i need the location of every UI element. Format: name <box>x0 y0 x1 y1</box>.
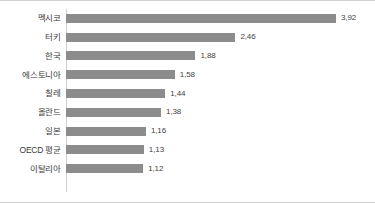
bar-track: 1,13 <box>66 141 375 160</box>
bar-track: 3,92 <box>66 9 375 28</box>
bar-row: 일본1,16 <box>0 122 375 141</box>
bar-row: 이탈리아1,12 <box>0 159 375 178</box>
bar-track: 1,44 <box>66 84 375 103</box>
bar <box>66 164 143 173</box>
bar-category-label: 멕시코 <box>0 14 66 23</box>
bar <box>66 33 235 42</box>
bar-track: 1,88 <box>66 47 375 66</box>
bar-category-label: 이탈리아 <box>0 165 66 174</box>
bar-category-label: 올란드 <box>0 108 66 117</box>
bar-track: 1,38 <box>66 103 375 122</box>
bar-value-label: 1,16 <box>146 127 166 135</box>
bar-row: 칠레1,44 <box>0 84 375 103</box>
bar-value-label: 1,44 <box>165 90 185 98</box>
bar-value-label: 1,88 <box>195 52 215 60</box>
bar-category-label: OECD 평균 <box>0 146 66 155</box>
bar-value-label: 1,38 <box>161 108 181 116</box>
bar-value-label: 1,13 <box>144 146 164 154</box>
bar-category-label: 일본 <box>0 127 66 136</box>
bar-category-label: 터키 <box>0 33 66 42</box>
bar <box>66 89 165 98</box>
bar-row: 에스토니아1,58 <box>0 65 375 84</box>
bar <box>66 14 336 23</box>
bar-track: 2,46 <box>66 28 375 47</box>
bar <box>66 51 195 60</box>
bar <box>66 70 175 79</box>
bar-value-label: 2,46 <box>235 33 255 41</box>
bar-row: OECD 평균1,13 <box>0 141 375 160</box>
bar-row: 멕시코3,92 <box>0 9 375 28</box>
bar-track: 1,16 <box>66 122 375 141</box>
bar-value-label: 3,92 <box>336 14 356 22</box>
bar-category-label: 칠레 <box>0 89 66 98</box>
bar <box>66 127 146 136</box>
chart-frame: 멕시코3,92터키2,46한국1,88에스토니아1,58칠레1,44올란드1,3… <box>0 0 375 203</box>
bar-row: 올란드1,38 <box>0 103 375 122</box>
bar-value-label: 1,12 <box>143 165 163 173</box>
bar-track: 1,58 <box>66 65 375 84</box>
bar-row: 터키2,46 <box>0 28 375 47</box>
bar <box>66 145 144 154</box>
bar-category-label: 에스토니아 <box>0 71 66 80</box>
bar <box>66 108 161 117</box>
bar-category-label: 한국 <box>0 52 66 61</box>
bar-chart-plot-area: 멕시코3,92터키2,46한국1,88에스토니아1,58칠레1,44올란드1,3… <box>0 9 375 192</box>
bar-row: 한국1,88 <box>0 47 375 66</box>
bar-value-label: 1,58 <box>175 71 195 79</box>
bar-track: 1,12 <box>66 159 375 178</box>
